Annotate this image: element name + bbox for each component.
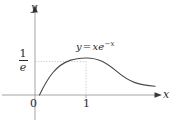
equation-lhs: y (76, 41, 82, 52)
equation-equals-sign: = (82, 41, 93, 52)
fraction-numerator: 1 (15, 48, 31, 60)
curve-equation-label: y=xe−x (76, 41, 115, 52)
x-axis-arrowhead (155, 92, 163, 98)
y-axis-label: y (31, 2, 37, 13)
function-curve (40, 58, 156, 95)
x-tick-label-1: 1 (83, 98, 90, 109)
function-graph-figure: y x 0 1 1 e y=xe−x (0, 0, 172, 129)
equation-base: xe (92, 41, 104, 52)
y-tick-label-one-over-e: 1 e (15, 48, 31, 73)
x-axis-label: x (163, 89, 169, 100)
fraction-denominator: e (15, 62, 31, 74)
origin-label: 0 (30, 98, 37, 109)
equation-exponent: −x (104, 40, 114, 48)
